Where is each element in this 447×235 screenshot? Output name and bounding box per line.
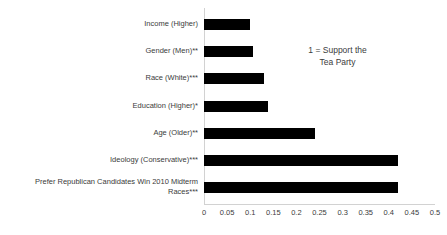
bar-row	[204, 147, 435, 175]
category-label: Prefer Republican Candidates Win 2010 Mi…	[0, 177, 204, 197]
x-tick-label: 0.3	[337, 208, 347, 218]
category-label: Age (Older)**	[0, 128, 204, 138]
bar	[204, 46, 253, 57]
bar-row	[204, 174, 435, 202]
bar	[204, 73, 264, 84]
x-tick-label: 0.1	[245, 208, 255, 218]
category-label: Race (White)***	[0, 73, 204, 83]
x-tick-label: 0.15	[266, 208, 281, 218]
bar-row	[204, 93, 435, 121]
x-tick-label: 0.25	[312, 208, 327, 218]
bar	[204, 182, 398, 193]
x-tick-label: 0.45	[405, 208, 420, 218]
bar	[204, 19, 250, 30]
x-axis-line	[204, 204, 435, 205]
bar	[204, 101, 268, 112]
category-label: Education (Higher)*	[0, 101, 204, 111]
category-label: Income (Higher)	[0, 19, 204, 29]
bar-chart: Income (Higher)Gender (Men)**Race (White…	[0, 0, 447, 235]
x-tick-label: 0.05	[220, 208, 235, 218]
bar	[204, 155, 398, 166]
bar-row	[204, 120, 435, 148]
x-tick-label: 0	[202, 208, 206, 218]
chart-annotation: 1 = Support the Tea Party	[283, 44, 393, 68]
category-label: Gender (Men)**	[0, 46, 204, 56]
x-tick-label: 0.2	[291, 208, 301, 218]
x-tick-label: 0.35	[358, 208, 373, 218]
plot-area	[204, 8, 435, 204]
bar	[204, 128, 315, 139]
category-label: Ideology (Conservative)***	[0, 155, 204, 165]
x-tick-label: 0.4	[384, 208, 394, 218]
x-tick-label: 0.5	[430, 208, 440, 218]
bar-row	[204, 11, 435, 39]
bar-row	[204, 65, 435, 93]
